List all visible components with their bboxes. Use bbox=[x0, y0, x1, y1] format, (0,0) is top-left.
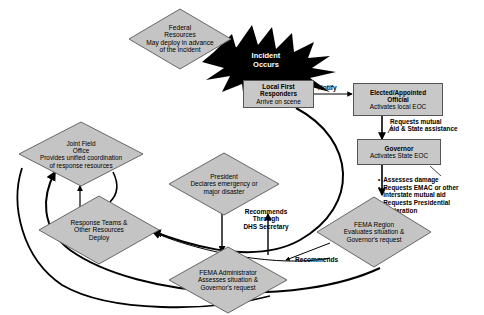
president-diamond-shape bbox=[168, 152, 280, 216]
diagram-canvas: Incident Occurs Federal Resources May de… bbox=[0, 0, 484, 315]
recommends-through-line1: Recommends bbox=[236, 208, 296, 215]
governor-action-item: • Assesses damage bbox=[378, 176, 482, 184]
edge-label-recommends: Recommends bbox=[295, 256, 338, 264]
node-president[interactable]: President Declares emergency or major di… bbox=[168, 152, 280, 216]
elected-official-line2: Official bbox=[387, 96, 409, 103]
bullet-dot-icon: • bbox=[378, 176, 380, 184]
local-first-responders-line2: Responders bbox=[260, 90, 297, 97]
edge-label-requests-mutual-aid: Requests mutual aid & State assistance bbox=[390, 118, 458, 133]
local-first-responders-line1: Local First bbox=[262, 83, 294, 90]
bullet-dot-icon: • bbox=[378, 184, 380, 192]
node-governor[interactable]: Governor Activates State EOC bbox=[357, 139, 441, 165]
governor-line2: Activates State EOC bbox=[370, 152, 428, 159]
recommends-through-line3: DHS Secretary bbox=[236, 223, 296, 230]
requests-mutual-line1: Requests mutual bbox=[390, 118, 458, 125]
governor-action-1: Assesses damage bbox=[383, 176, 438, 184]
edge-label-recommends-through-dhs: Recommends Through DHS Secretary bbox=[236, 208, 296, 230]
response-teams-diamond-shape bbox=[38, 195, 160, 265]
node-response-teams[interactable]: Response Teams & Other Resources Deploy bbox=[38, 195, 160, 265]
joint-field-office-diamond-shape bbox=[18, 121, 144, 187]
elected-official-line3: Activates local EOC bbox=[370, 103, 426, 110]
elected-official-line1: Elected/Appointed bbox=[370, 89, 426, 96]
node-fema-administrator[interactable]: FEMA Administrator Assesses situation & … bbox=[168, 246, 288, 314]
fema-administrator-diamond-shape bbox=[168, 246, 288, 314]
federal-resources-diamond-shape bbox=[128, 8, 232, 70]
recommends-through-line2: Through bbox=[236, 215, 296, 222]
governor-line1: Governor bbox=[385, 145, 414, 152]
node-joint-field-office[interactable]: Joint Field Office Provides unified coor… bbox=[18, 121, 144, 187]
node-elected-appointed-official[interactable]: Elected/Appointed Official Activates loc… bbox=[353, 83, 443, 116]
requests-mutual-line2: aid & State assistance bbox=[390, 125, 458, 132]
local-first-responders-line3: Arrive on scene bbox=[256, 98, 300, 105]
edge-label-notify: Notify bbox=[318, 84, 337, 92]
node-local-first-responders[interactable]: Local First Responders Arrive on scene bbox=[243, 80, 314, 108]
node-federal-resources[interactable]: Federal Resources May deploy in advance … bbox=[128, 8, 232, 70]
